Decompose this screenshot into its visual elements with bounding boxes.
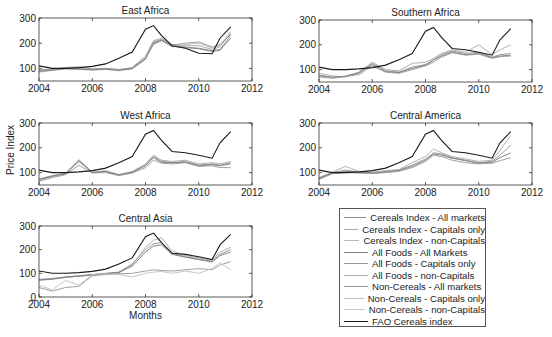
legend-swatch-icon: [344, 217, 366, 218]
series-line: [319, 53, 511, 79]
x-tick-label: 2006: [81, 187, 104, 198]
series-line: [319, 52, 511, 77]
panel-southern-africa: Southern Africa2004200620082010201210020…: [299, 7, 543, 95]
series-line: [39, 158, 231, 180]
y-tick-label: 100: [19, 167, 36, 178]
legend-swatch-icon: [344, 286, 368, 287]
legend-label: Non-Cereals - non-Capitals: [369, 304, 485, 315]
x-tick-label: 2012: [241, 83, 264, 94]
x-tick-label: 2010: [188, 83, 211, 94]
legend-item: Cereals Index - Capitals only: [344, 224, 485, 236]
x-tick-label: 2010: [188, 299, 211, 310]
x-tick-label: 2006: [81, 83, 104, 94]
axes-frame: [319, 123, 532, 185]
y-tick-label: 200: [299, 142, 316, 153]
panel-title: Central America: [390, 110, 462, 121]
panel-title: Southern Africa: [391, 7, 460, 18]
y-tick-label: 300: [19, 221, 36, 232]
legend-label: Non-Cereals - All markets: [372, 281, 481, 292]
x-tick-label: 2008: [414, 187, 437, 198]
legend-item: Cereals Index - non-Capitals: [344, 235, 485, 247]
legend-item: FAO Cereals index: [344, 316, 485, 328]
x-tick-label: 2004: [308, 187, 331, 198]
legend-swatch-icon: [344, 309, 365, 310]
legend-label: Cereals Index - non-Capitals: [363, 235, 485, 246]
series-line: [39, 157, 231, 181]
legend-item: Non-Cereals - non-Capitals: [344, 304, 485, 316]
x-tick-label: 2010: [468, 187, 491, 198]
x-tick-label: 2012: [241, 299, 264, 310]
panel-central-asia: Central Asia2004200620082010201201002003…: [19, 213, 263, 321]
y-tick-label: 300: [19, 118, 36, 129]
x-tick-label: 2008: [134, 83, 157, 94]
panel-central-america: Central America2004200620082010201210020…: [299, 110, 543, 198]
x-tick-label: 2004: [28, 187, 51, 198]
x-tick-label: 2008: [414, 84, 437, 95]
axes-frame: [319, 20, 532, 82]
series-line: [319, 153, 511, 178]
legend-swatch-icon: [344, 263, 368, 264]
y-tick-label: 200: [19, 244, 36, 255]
series-line: [39, 155, 231, 179]
legend-swatch-icon: [344, 275, 368, 276]
x-tick-label: 2004: [308, 84, 331, 95]
legend-swatch-icon: [344, 240, 359, 241]
legend-item: All Foods - All Markets: [344, 247, 485, 259]
series-line: [39, 238, 231, 281]
legend-swatch-icon: [344, 321, 368, 322]
legend-label: FAO Cereals index: [372, 316, 453, 327]
panel-west-africa: West Africa20042006200820102012100200300: [19, 110, 263, 198]
panel-title: East Africa: [122, 5, 170, 16]
y-tick-label: 100: [299, 167, 316, 178]
y-tick-label: 300: [19, 13, 36, 24]
x-tick-label: 2012: [521, 84, 544, 95]
legend-label: All Foods - Capitals only: [372, 258, 475, 269]
y-tick-label: 200: [299, 39, 316, 50]
legend-item: All Foods - Capitals only: [344, 258, 485, 270]
legend-item: Non-Cereals - All markets: [344, 281, 485, 293]
series-line: [39, 245, 231, 280]
series-line: [39, 233, 231, 273]
panel-title: Central Asia: [119, 213, 173, 224]
legend-label: Cereals Index - Capitals only: [362, 224, 485, 235]
y-tick-label: 200: [19, 38, 36, 49]
legend-swatch-icon: [344, 298, 364, 299]
x-tick-label: 2010: [468, 84, 491, 95]
y-tick-label: 100: [19, 268, 36, 279]
legend: Cereals Index - All marketsCereals Index…: [339, 208, 486, 327]
y-axis-label: Price Index: [5, 125, 16, 175]
panel-east-africa: East Africa20042006200820102012100200300: [19, 5, 263, 94]
x-tick-label: 2006: [361, 84, 384, 95]
x-tick-label: 2004: [28, 83, 51, 94]
legend-label: All Foods - non-Capitals: [372, 270, 474, 281]
x-tick-label: 2012: [241, 187, 264, 198]
series-line: [39, 33, 231, 70]
legend-item: Cereals Index - All markets: [344, 212, 485, 224]
x-tick-label: 2008: [134, 299, 157, 310]
x-tick-label: 2006: [361, 187, 384, 198]
x-tick-label: 2008: [134, 187, 157, 198]
y-tick-label: 300: [299, 15, 316, 26]
x-axis-label: Months: [129, 310, 162, 321]
y-tick-label: 300: [299, 118, 316, 129]
y-tick-label: 200: [19, 142, 36, 153]
legend-swatch-icon: [344, 229, 358, 230]
legend-label: Cereals Index - All markets: [370, 212, 485, 223]
x-tick-label: 2010: [188, 187, 211, 198]
x-tick-label: 2006: [81, 299, 104, 310]
legend-label: All Foods - All Markets: [372, 247, 467, 258]
y-tick-label: 0: [30, 292, 36, 303]
legend-label: Non-Cereals - Capitals only: [368, 293, 485, 304]
axes-frame: [39, 123, 252, 185]
legend-swatch-icon: [344, 252, 368, 253]
series-line: [319, 145, 511, 179]
legend-item: Non-Cereals - Capitals only: [344, 293, 485, 305]
panel-title: West Africa: [120, 110, 171, 121]
x-tick-label: 2012: [521, 187, 544, 198]
y-tick-label: 100: [19, 63, 36, 74]
y-tick-label: 100: [299, 64, 316, 75]
legend-item: All Foods - non-Capitals: [344, 270, 485, 282]
